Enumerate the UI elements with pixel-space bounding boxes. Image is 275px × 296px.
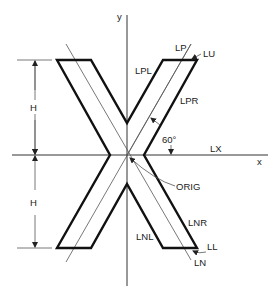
leader-ll	[193, 251, 206, 253]
label-lnr: LNR	[188, 217, 207, 228]
label-orig: ORIG	[176, 181, 200, 192]
angle-leader	[151, 118, 160, 125]
label-ln: LN	[194, 257, 206, 268]
label-lpl: LPL	[135, 65, 152, 76]
label-lnl: LNL	[136, 231, 153, 242]
dim-label-lower: H	[30, 197, 37, 208]
angle-label: 60°	[162, 134, 177, 145]
x-shape-diagram: x y H H 60° LP LU LPL LPR LX ORIG LNR LN…	[0, 0, 275, 296]
y-axis-label: y	[117, 11, 122, 22]
x-axis-label: x	[257, 156, 262, 167]
label-lp: LP	[175, 42, 187, 53]
label-lpr: LPR	[180, 95, 199, 106]
leader-lu	[192, 54, 201, 59]
label-lx: LX	[210, 143, 222, 154]
label-lu: LU	[203, 48, 215, 59]
dim-label-upper: H	[30, 102, 37, 113]
label-ll: LL	[207, 241, 218, 252]
